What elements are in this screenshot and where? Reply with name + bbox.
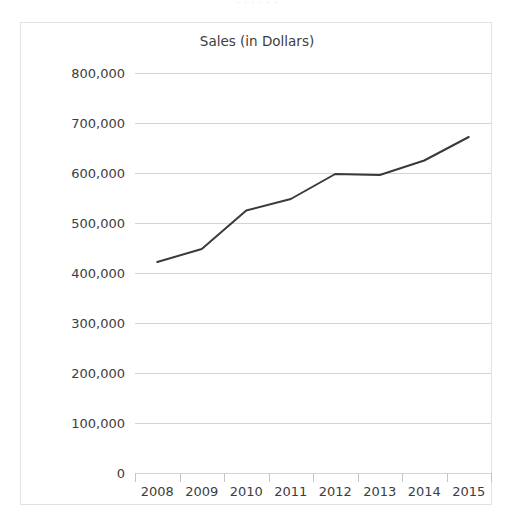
- y-axis-tick-label: 600,000: [33, 166, 125, 181]
- y-axis-tick-label: 800,000: [33, 66, 125, 81]
- y-axis-tick-label: 100,000: [33, 416, 125, 431]
- x-axis-tick: [269, 473, 270, 482]
- x-axis-tick-label: 2011: [269, 482, 314, 506]
- sales-line-series: [135, 23, 491, 506]
- x-axis-tick: [313, 473, 314, 482]
- y-axis-tick-label: 400,000: [33, 266, 125, 281]
- chart-container: Sales (in Dollars) 800,000700,000600,000…: [20, 22, 492, 505]
- x-axis-labels: 20082009201020112012201320142015: [135, 482, 491, 506]
- x-axis-tick-label: 2012: [313, 482, 358, 506]
- x-axis-tick: [491, 473, 492, 482]
- y-axis-tick-label: 300,000: [33, 316, 125, 331]
- y-axis-labels: 800,000700,000600,000500,000400,000300,0…: [33, 23, 125, 506]
- x-axis-tick: [135, 473, 136, 482]
- x-axis-tick-label: 2015: [447, 482, 492, 506]
- x-axis-tick-label: 2009: [180, 482, 225, 506]
- x-axis-tick: [180, 473, 181, 482]
- y-axis-tick-label: 0: [33, 466, 125, 481]
- x-axis-tick-label: 2013: [358, 482, 403, 506]
- x-axis-tick: [224, 473, 225, 482]
- y-axis-tick-label: 200,000: [33, 366, 125, 381]
- x-axis-tick: [358, 473, 359, 482]
- x-axis-tick-label: 2010: [224, 482, 269, 506]
- x-axis-tick: [447, 473, 448, 482]
- x-axis-tick: [402, 473, 403, 482]
- x-axis-tick-label: 2008: [135, 482, 180, 506]
- cropped-header-text: · · · · · ·: [0, 0, 514, 8]
- y-axis-tick-label: 500,000: [33, 216, 125, 231]
- x-axis-ticks: [135, 473, 491, 482]
- y-axis-tick-label: 700,000: [33, 116, 125, 131]
- x-axis-tick-label: 2014: [402, 482, 447, 506]
